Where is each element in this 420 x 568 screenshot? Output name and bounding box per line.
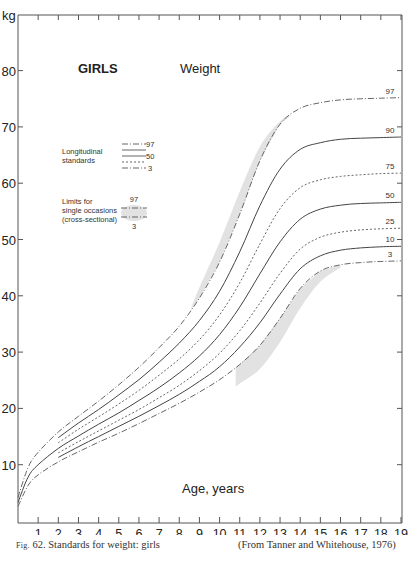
- chart-subtitle: Weight: [180, 61, 221, 76]
- curve-p3: [18, 261, 401, 507]
- x-tick-label: 1: [35, 527, 42, 535]
- x-tick-label: 7: [156, 527, 163, 535]
- y-unit-label: kg: [2, 8, 16, 23]
- x-tick-label: 5: [115, 527, 122, 535]
- y-tick-label: 60: [2, 176, 16, 191]
- x-tick-label: 2: [55, 527, 62, 535]
- ticks: 1234567891011121314151617181910203040506…: [2, 15, 408, 535]
- x-tick-label: 9: [196, 527, 203, 535]
- x-tick-label: 15: [313, 527, 327, 535]
- x-tick-label: 13: [273, 527, 287, 535]
- legend-longitudinal-label: Longitudinal: [62, 147, 103, 156]
- figure-caption: Fig. 62. Standards for weight: girls: [16, 539, 160, 550]
- figure-caption-prefix: Fig.: [16, 541, 30, 550]
- y-tick-label: 70: [2, 120, 16, 135]
- curve-label-p97: 97: [386, 87, 395, 96]
- legend: Longitudinalstandards97503Limits forsing…: [62, 140, 154, 231]
- x-tick-label: 19: [394, 527, 408, 535]
- curve-p50: [18, 202, 401, 502]
- x-tick-label: 3: [75, 527, 82, 535]
- legend-longitudinal-label: standards: [62, 156, 95, 165]
- legend-cross-entry-97: 97: [130, 195, 138, 204]
- upper-limit-shading: [189, 115, 292, 313]
- legend-entry-97: 97: [146, 140, 154, 149]
- legend-cross-label: single occasions: [62, 206, 117, 215]
- y-tick-label: 80: [2, 64, 16, 79]
- x-tick-label: 4: [95, 527, 102, 535]
- legend-entry-50: 50: [146, 152, 154, 161]
- curve-label-p3: 3: [388, 250, 393, 259]
- cross-sectional-shading: [189, 115, 340, 388]
- x-tick-label: 11: [233, 527, 246, 535]
- x-tick-label: 14: [293, 527, 307, 535]
- x-tick-label: 10: [213, 527, 227, 535]
- legend-cross-entry-3: 3: [132, 222, 136, 231]
- x-axis-label: Age, years: [182, 481, 245, 496]
- chart-title: GIRLS: [78, 61, 118, 76]
- curve-label-p90: 90: [386, 126, 395, 135]
- figure-caption-text: 62. Standards for weight: girls: [33, 539, 160, 550]
- y-tick-label: 50: [2, 233, 16, 248]
- legend-shading-sample: [121, 205, 147, 221]
- x-tick-label: 6: [135, 527, 142, 535]
- x-tick-label: 17: [354, 527, 368, 535]
- legend-entry-3: 3: [148, 164, 152, 173]
- curve-p10: [58, 246, 401, 457]
- source-caption: (From Tanner and Whitehouse, 1976): [238, 539, 396, 550]
- y-tick-label: 30: [2, 345, 16, 360]
- curve-label-p10: 10: [386, 235, 395, 244]
- curve-label-p25: 25: [386, 217, 395, 226]
- curve-label-p50: 50: [386, 191, 395, 200]
- weight-chart: 1234567891011121314151617181910203040506…: [0, 0, 420, 535]
- y-tick-label: 20: [2, 401, 16, 416]
- y-tick-label: 10: [2, 458, 16, 473]
- x-tick-label: 12: [253, 527, 267, 535]
- y-tick-label: 40: [2, 289, 16, 304]
- x-tick-label: 16: [334, 527, 348, 535]
- x-tick-label: 18: [374, 527, 388, 535]
- curve-label-p75: 75: [386, 162, 395, 171]
- curve-p25: [58, 228, 401, 453]
- legend-cross-label: (cross-sectional): [62, 215, 118, 224]
- legend-cross-label: Limits for: [62, 197, 93, 206]
- x-tick-label: 8: [176, 527, 183, 535]
